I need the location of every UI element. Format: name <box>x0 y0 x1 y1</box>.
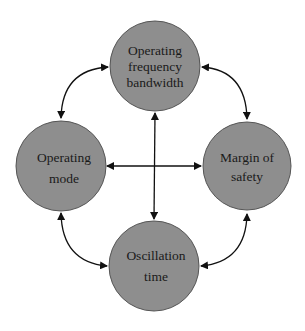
node-margin-of-safety: Margin of safety <box>203 122 291 210</box>
edge-top-bottom <box>154 113 155 219</box>
node-label-line: mode <box>49 171 79 186</box>
node-oscillation-time: Oscillation time <box>109 221 199 311</box>
edge-bottom-right <box>201 214 247 266</box>
node-label-line: Margin of <box>220 150 275 165</box>
diagram-svg: Operating frequency bandwidth Operating … <box>0 0 305 331</box>
edge-bottom-left <box>61 213 107 266</box>
edge-top-left <box>61 67 108 118</box>
node-label-line: time <box>144 269 168 284</box>
node-operating-mode: Operating mode <box>16 121 106 211</box>
node-label-line: bandwidth <box>127 75 184 90</box>
node-operating-frequency-bandwidth: Operating frequency bandwidth <box>110 21 200 111</box>
node-label-line: frequency <box>128 59 182 74</box>
node-label-line: safety <box>231 169 263 184</box>
diagram-canvas: Operating frequency bandwidth Operating … <box>0 0 305 331</box>
node-label-line: Operating <box>37 150 91 165</box>
node-label-line: Operating <box>128 43 182 58</box>
node-label-line: Oscillation <box>126 248 185 263</box>
edge-top-right <box>202 67 247 119</box>
